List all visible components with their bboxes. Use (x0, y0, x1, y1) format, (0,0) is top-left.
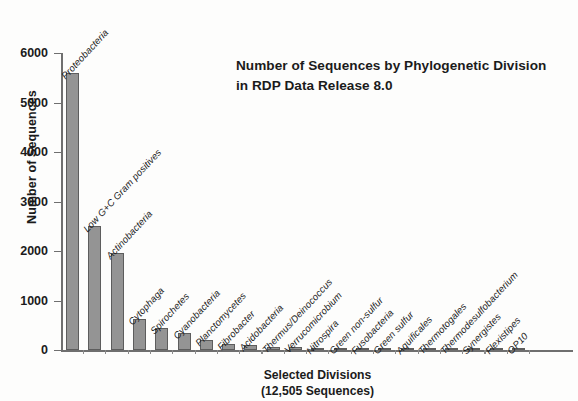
x-tick-mark (395, 350, 396, 354)
x-axis-title: Selected Divisions (12,505 Sequences) (62, 368, 573, 400)
x-tick-mark (261, 350, 262, 354)
y-tick-mark (54, 152, 62, 153)
x-tick-mark (172, 350, 173, 354)
y-tick-label: 0 (0, 344, 48, 357)
y-tick-label: 3000 (0, 196, 48, 209)
chart-title-line1: Number of Sequences by Phylogenetic (236, 58, 489, 73)
x-tick-mark (128, 350, 129, 354)
y-tick-mark (54, 53, 62, 54)
y-tick-label: 1000 (0, 295, 48, 308)
x-tick-mark (418, 350, 419, 354)
x-tick-mark (105, 350, 106, 354)
x-tick-mark (195, 350, 196, 354)
bar[interactable] (111, 253, 124, 350)
x-tick-mark (351, 350, 352, 354)
x-tick-mark (373, 350, 374, 354)
y-tick-label: 2000 (0, 245, 48, 258)
x-tick-mark (462, 350, 463, 354)
y-tick-mark (54, 202, 62, 203)
y-tick-mark (54, 103, 62, 104)
x-tick-mark (507, 350, 508, 354)
y-tick-mark (54, 251, 62, 252)
x-tick-mark (529, 350, 530, 354)
x-tick-mark (328, 350, 329, 354)
y-tick-label: 6000 (0, 47, 48, 60)
x-tick-mark (150, 350, 151, 354)
x-tick-mark (440, 350, 441, 354)
chart-title: Number of Sequences by Phylogenetic Divi… (236, 56, 556, 95)
y-tick-label: 4000 (0, 146, 48, 159)
bar-chart: Number of Sequences 01000200030004000500… (0, 0, 578, 401)
x-axis-title-line2: (12,505 Sequences) (62, 384, 573, 400)
x-axis-title-line1: Selected Divisions (62, 368, 573, 384)
bar[interactable] (88, 226, 101, 350)
y-tick-label: 5000 (0, 97, 48, 110)
x-tick-mark (217, 350, 218, 354)
y-tick-mark (54, 301, 62, 302)
bar[interactable] (66, 73, 79, 350)
x-tick-mark (306, 350, 307, 354)
x-tick-mark (284, 350, 285, 354)
x-tick-mark (83, 350, 84, 354)
x-tick-mark (239, 350, 240, 354)
x-tick-mark (484, 350, 485, 354)
